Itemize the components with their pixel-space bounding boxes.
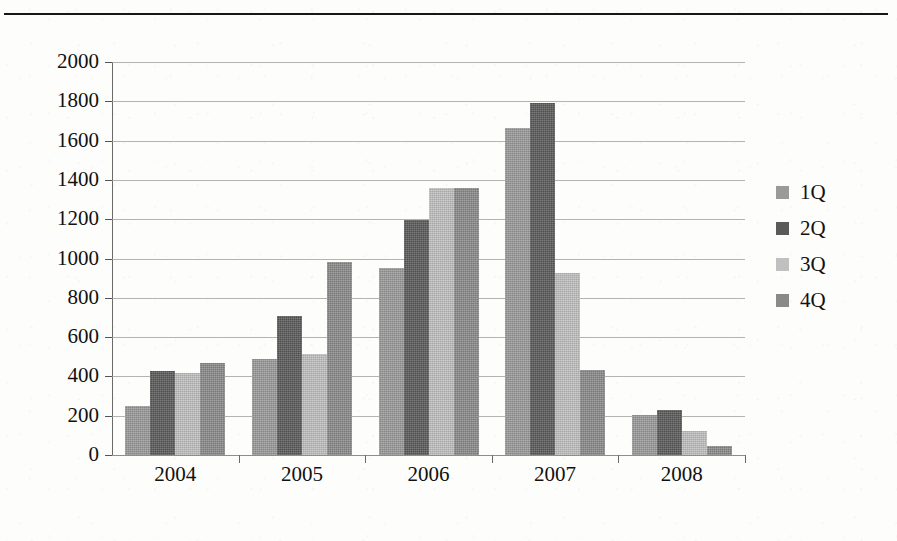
- x-axis-tick: [239, 455, 240, 463]
- bar-group-2008: [632, 62, 732, 455]
- bar-2007-3Q[interactable]: [555, 273, 580, 455]
- legend-item-1q[interactable]: 1Q: [776, 174, 826, 210]
- bar-2004-4Q[interactable]: [200, 363, 225, 455]
- bar-texture: [175, 373, 200, 455]
- bar-texture: [379, 268, 404, 455]
- y-axis-tick-label: 1400: [57, 169, 99, 190]
- y-axis-tick: [105, 101, 112, 102]
- y-axis-tick: [105, 337, 112, 338]
- bar-texture: [277, 316, 302, 455]
- legend-label: 4Q: [800, 290, 826, 311]
- bar-texture: [252, 359, 277, 455]
- bar-texture: [454, 188, 479, 455]
- y-axis-tick: [105, 298, 112, 299]
- x-axis-tick-label-2007: 2007: [492, 462, 619, 486]
- bar-2008-1Q[interactable]: [632, 415, 657, 455]
- y-axis-tick: [105, 376, 112, 377]
- bar-texture: [429, 188, 454, 455]
- bar-group-2004: [125, 62, 225, 455]
- x-axis-tick-label-2008: 2008: [618, 462, 745, 486]
- bar-group-2007: [505, 62, 605, 455]
- legend-swatch-1q: [776, 186, 789, 199]
- bar-texture: [327, 262, 352, 455]
- bar-texture: [505, 128, 530, 455]
- y-axis-tick: [105, 219, 112, 220]
- plot-area: [112, 62, 745, 455]
- y-axis-tick: [105, 180, 112, 181]
- legend-label: 2Q: [800, 218, 826, 239]
- bar-2008-2Q[interactable]: [657, 410, 682, 455]
- y-axis-tick: [105, 416, 112, 417]
- legend-item-4q[interactable]: 4Q: [776, 282, 826, 318]
- x-axis-tick: [365, 455, 366, 463]
- y-axis-tick-label: 800: [68, 287, 100, 308]
- x-axis-tick: [618, 455, 619, 463]
- x-axis-tick: [745, 455, 746, 463]
- y-axis-tick-label: 1000: [57, 248, 99, 269]
- y-axis-tick-label: 2000: [57, 51, 99, 72]
- bar-texture: [125, 406, 150, 455]
- legend-swatch-2q: [776, 222, 789, 235]
- x-axis-tick-label-2005: 2005: [239, 462, 366, 486]
- bar-2006-4Q[interactable]: [454, 188, 479, 455]
- bar-2005-1Q[interactable]: [252, 359, 277, 455]
- bar-2008-4Q[interactable]: [707, 446, 732, 455]
- bar-2006-1Q[interactable]: [379, 268, 404, 455]
- bar-2005-2Q[interactable]: [277, 316, 302, 455]
- gridline: [112, 455, 745, 456]
- y-axis-tick-label: 600: [68, 326, 100, 347]
- bar-texture: [302, 354, 327, 455]
- bar-texture: [632, 415, 657, 455]
- bar-2007-4Q[interactable]: [580, 370, 605, 455]
- bar-texture: [200, 363, 225, 455]
- legend-label: 3Q: [800, 254, 826, 275]
- bar-texture: [682, 431, 707, 455]
- y-axis-tick-label: 400: [68, 365, 100, 386]
- bar-2005-4Q[interactable]: [327, 262, 352, 455]
- bar-2007-1Q[interactable]: [505, 128, 530, 455]
- y-axis-tick: [105, 141, 112, 142]
- legend-item-2q[interactable]: 2Q: [776, 210, 826, 246]
- legend-swatch-4q: [776, 294, 789, 307]
- bar-2006-2Q[interactable]: [404, 220, 429, 455]
- bar-2007-2Q[interactable]: [530, 103, 555, 455]
- bar-texture: [707, 446, 732, 455]
- bar-2008-3Q[interactable]: [682, 431, 707, 455]
- chart-legend: 1Q2Q3Q4Q: [776, 174, 826, 318]
- legend-swatch-3q: [776, 258, 789, 271]
- legend-item-3q[interactable]: 3Q: [776, 246, 826, 282]
- bar-texture: [657, 410, 682, 455]
- bar-group-2006: [379, 62, 479, 455]
- y-axis-tick: [105, 259, 112, 260]
- x-axis-tick-label-2004: 2004: [112, 462, 239, 486]
- x-axis-tick-label-2006: 2006: [365, 462, 492, 486]
- legend-label: 1Q: [800, 182, 826, 203]
- top-horizontal-rule: [4, 13, 888, 15]
- y-axis-tick-label: 1600: [57, 130, 99, 151]
- bar-2004-2Q[interactable]: [150, 371, 175, 455]
- y-axis-tick-label: 200: [68, 405, 100, 426]
- y-axis-tick-label: 0: [89, 444, 100, 465]
- y-axis-tick-label: 1200: [57, 208, 99, 229]
- y-axis-tick: [105, 455, 112, 456]
- bar-texture: [580, 370, 605, 455]
- x-axis-tick: [492, 455, 493, 463]
- bar-texture: [404, 220, 429, 455]
- bar-2004-3Q[interactable]: [175, 373, 200, 455]
- bar-group-2005: [252, 62, 352, 455]
- bar-2004-1Q[interactable]: [125, 406, 150, 455]
- bar-texture: [530, 103, 555, 455]
- bar-texture: [555, 273, 580, 455]
- bar-chart-figure: 1Q2Q3Q4Q 2000180016001400120010008006004…: [0, 0, 897, 541]
- bar-2005-3Q[interactable]: [302, 354, 327, 455]
- y-axis-tick-label: 1800: [57, 90, 99, 111]
- bar-texture: [150, 371, 175, 455]
- bar-2006-3Q[interactable]: [429, 188, 454, 455]
- y-axis-tick: [105, 62, 112, 63]
